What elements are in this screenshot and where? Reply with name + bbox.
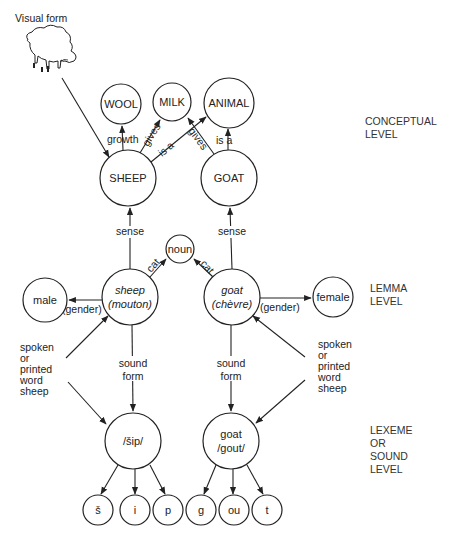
svg-text:female: female <box>316 291 349 303</box>
edge-label-cat-sheep: cat <box>144 256 162 275</box>
node-noun: noun <box>166 235 194 263</box>
node-animal: ANIMAL <box>204 78 254 128</box>
edge-phoneme-t <box>247 465 263 494</box>
edge-label-gender-female: (gender) <box>260 301 300 313</box>
level-lexeme-line4: LEVEL <box>370 463 403 475</box>
level-conceptual-line1: CONCEPTUAL <box>365 115 437 127</box>
svg-text:/šip/: /šip/ <box>123 435 144 447</box>
level-lexeme-line2: OR <box>370 437 386 449</box>
edge-phoneme-g <box>204 465 216 494</box>
svg-text:ou: ou <box>228 504 240 516</box>
phoneme-node-ou: ou <box>219 495 249 525</box>
sheep-drawing-icon <box>27 25 76 72</box>
svg-text:p: p <box>165 504 171 516</box>
edge-label-sense-sheep: sense <box>116 225 144 237</box>
phoneme-node-s: š <box>83 495 113 525</box>
node-sheep-lemma: sheep (mouton) <box>102 269 158 325</box>
node-sheep-concept: SHEEP <box>100 150 156 206</box>
svg-text:goat: goat <box>220 428 241 440</box>
visual-form-label: Visual form <box>15 12 68 24</box>
svg-text:(chèvre): (chèvre) <box>212 298 253 310</box>
phoneme-node-p: p <box>153 495 183 525</box>
svg-text:male: male <box>33 294 57 306</box>
svg-text:sheep: sheep <box>115 284 145 296</box>
input-label-right: spoken or printed word sheep <box>317 338 352 394</box>
edge-label-goat-gives: gives <box>186 125 210 152</box>
edge-phoneme-s <box>101 465 118 494</box>
svg-text:ANIMAL: ANIMAL <box>209 97 250 109</box>
node-goat-lemma: goat (chèvre) <box>204 269 260 325</box>
edge-input-to-goat-lemma <box>253 316 305 357</box>
svg-text:i: i <box>134 504 136 516</box>
svg-text:g: g <box>198 504 204 516</box>
edge-phoneme-p <box>150 465 165 494</box>
edge-label-sense-goat: sense <box>218 225 246 237</box>
input-label-left: spoken or printed word sheep <box>19 341 54 397</box>
svg-text:t: t <box>265 504 268 516</box>
svg-text:/gout/: /gout/ <box>217 442 245 454</box>
edge-visual-to-sheep <box>62 78 109 157</box>
edge-label-sound-goat-1: sound <box>217 357 246 369</box>
edge-label-goat-is-a: is a <box>216 134 233 146</box>
edge-input-to-sheep-lexeme <box>68 382 106 424</box>
edge-label-cat-goat: cat <box>199 257 217 276</box>
svg-text:sheep: sheep <box>318 382 347 394</box>
edge-label-sound-goat-2: form <box>221 370 242 382</box>
svg-text:WOOL: WOOL <box>104 98 138 110</box>
svg-text:sheep: sheep <box>20 385 49 397</box>
edge-label-gender-male: (gender) <box>62 303 102 315</box>
svg-text:SHEEP: SHEEP <box>109 172 146 184</box>
level-lemma-line2: LEVEL <box>370 295 403 307</box>
phoneme-node-t: t <box>252 495 282 525</box>
edge-input-to-goat-lexeme <box>256 380 305 423</box>
level-lexeme-line3: SOUND <box>370 450 408 462</box>
edge-label-growth: growth <box>107 133 139 145</box>
svg-text:GOAT: GOAT <box>214 172 245 184</box>
edge-label-sound-sheep-2: form <box>123 370 144 382</box>
edge-label-sound-sheep-1: sound <box>119 357 148 369</box>
level-lemma-line1: LEMMA <box>370 282 407 294</box>
svg-text:š: š <box>95 504 101 516</box>
lexical-access-diagram: Visual form growth gives is a gives is a… <box>0 0 451 537</box>
node-sheep-lexeme: /šip/ <box>105 413 161 469</box>
node-milk: MILK <box>153 83 191 121</box>
level-conceptual-line2: LEVEL <box>365 128 398 140</box>
edge-sense-goat <box>230 208 232 269</box>
node-goat-lexeme: goat /gout/ <box>203 413 259 469</box>
node-male: male <box>23 278 67 322</box>
svg-text:(mouton): (mouton) <box>108 298 152 310</box>
level-lexeme-line1: LEXEME <box>370 424 413 436</box>
svg-text:noun: noun <box>168 243 192 255</box>
svg-text:MILK: MILK <box>159 96 185 108</box>
edge-label-sheep-gives: gives <box>140 121 163 148</box>
node-wool: WOOL <box>101 84 141 124</box>
edge-input-to-sheep-lemma <box>66 316 108 358</box>
node-goat-concept: GOAT <box>201 150 257 206</box>
svg-text:goat: goat <box>221 284 243 296</box>
phoneme-node-i: i <box>120 495 150 525</box>
phoneme-node-g: g <box>186 495 216 525</box>
node-female: female <box>313 277 353 317</box>
